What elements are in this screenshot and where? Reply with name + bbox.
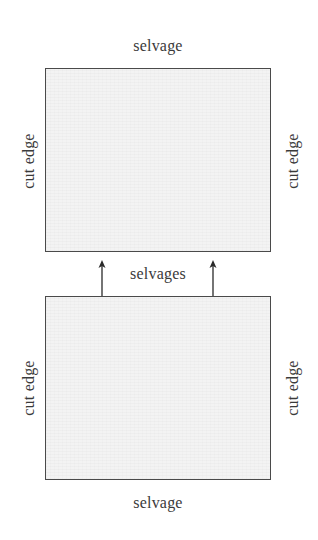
bottom-right-cut-edge-label: cut edge (284, 353, 302, 423)
bottom-selvage-label: selvage (0, 494, 316, 512)
bottom-left-cut-edge-label: cut edge (20, 353, 38, 423)
top-selvage-label: selvage (0, 37, 316, 55)
arrow-up-icon (207, 259, 219, 297)
bottom-fabric-piece (45, 296, 271, 480)
top-fabric-piece (45, 68, 271, 252)
middle-selvages-label: selvages (0, 265, 316, 283)
top-right-cut-edge-label: cut edge (284, 126, 302, 196)
top-left-cut-edge-label: cut edge (20, 126, 38, 196)
